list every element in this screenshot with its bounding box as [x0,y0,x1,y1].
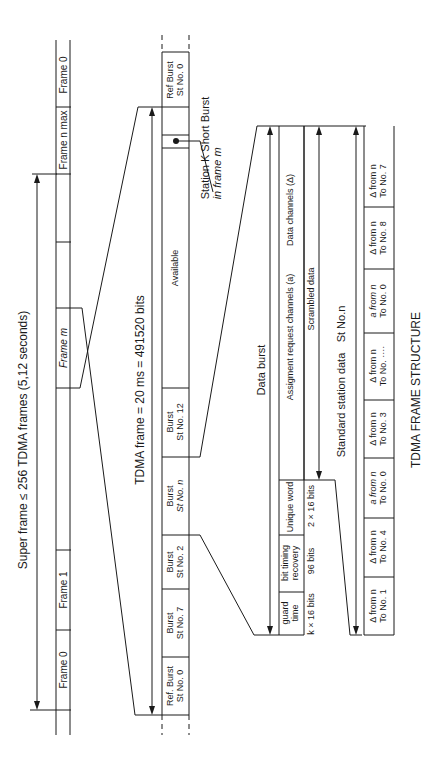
scrambled-data-label: Scrambled data [307,267,317,330]
station-number-label: St No.n [335,306,347,343]
burst-st-12: BurstSt No. 12 [166,403,186,441]
assignment-channels-label: Assigment request channels (a) [286,274,296,401]
bit-timing-recovery-field: bit timingrecovery [281,545,301,581]
unique-word-field: Unique word [286,482,296,533]
data-burst-label: Data burst [255,345,267,396]
superframe-label: Super frame ≤ 256 TDMA frames (5,12 seco… [17,311,30,569]
station-cell-1: Δ from nTo No. 1 [369,589,389,623]
burst-st-2: BurstSt No. 2 [166,546,186,579]
station-cell-7: Δ from nTo No. 8 [369,221,389,255]
bit-timing-size: 96 bits [307,548,317,575]
station-cell-5: Δ from nTo No. ···· [369,346,389,387]
guard-time-size: k × 16 bits [307,593,317,634]
superframe-frame-m: Frame m [58,328,69,368]
diagram-title: TDMA FRAME STRUCTURE [410,312,423,468]
guard-time-field: guardtime [281,601,301,624]
burst-ref-st-0: Ref. BurstSt No. 0 [166,666,186,706]
station-cell-6: a from nTo No. 0 [369,284,389,318]
burst-st-7: BurstSt No. 7 [166,607,186,640]
station-cell-3: a from nTo No. 0 [369,471,389,505]
station-cell-2: Δ from nTo No. 4 [369,530,389,564]
superframe-frame-1: Frame 1 [58,571,69,608]
standard-station-label: Standard station data [335,353,347,458]
burst-ref-st-0-next: Ref BurstSt No. 0 [166,61,186,99]
available-slot: Available [171,250,181,286]
data-channels-label: Data channels (Δ) [286,174,296,246]
short-burst-note: Station K Short Burstin frame m [199,97,223,200]
superframe-frame-n-max: Frame n max [58,111,69,170]
tdma-frame-label: TDMA frame = 20 ms = 491520 bits [134,295,147,484]
station-cell-4: Δ from nTo No. 3 [369,412,389,446]
burst-st-n: BurstSt No. n [166,480,186,513]
unique-word-size: 2 × 16 bits [307,485,317,527]
station-cell-8: Δ from nTo No. 7 [369,164,389,198]
superframe-frame-0-next: Frame 0 [58,56,69,93]
superframe-frame-0: Frame 0 [58,651,69,688]
